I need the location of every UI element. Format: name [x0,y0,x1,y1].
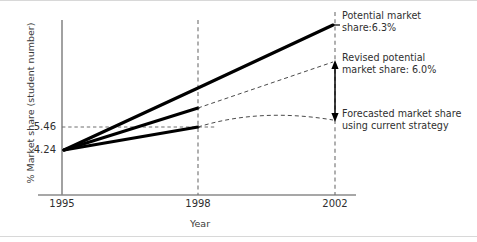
y-tick-424: 4.24 [16,144,56,155]
y-tick-546: 5.46 [16,121,56,132]
x-tick-2002: 2002 [305,198,365,209]
x-tick-1995: 1995 [32,198,92,209]
annotation-revised-potential-market-share: Revised potential market share: 6.0% [342,52,436,76]
series-revised-potential-dashed [198,62,333,108]
annotation-forecasted-market-share: Forecasted market share using current st… [342,108,461,132]
series-forecasted-dashed-curve [198,115,333,127]
annotation-potential-market-share: Potential market share:6.3% [342,10,421,34]
y-axis-title: % Market share (student number) [25,24,36,184]
gap-arrow [331,60,338,122]
x-tick-1998: 1998 [168,198,228,209]
x-axis-title: Year [170,218,230,229]
chart-figure: % Market share (student number) Year 199… [0,0,477,242]
